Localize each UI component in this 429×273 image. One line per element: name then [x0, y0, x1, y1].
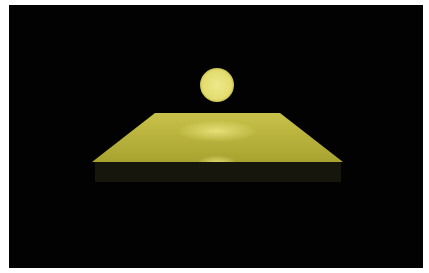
render-viewport [9, 5, 423, 268]
sphere [200, 68, 234, 102]
scene-graphic [9, 5, 423, 268]
plane-front-face [95, 162, 341, 182]
sphere-reflection-glow [177, 120, 257, 142]
